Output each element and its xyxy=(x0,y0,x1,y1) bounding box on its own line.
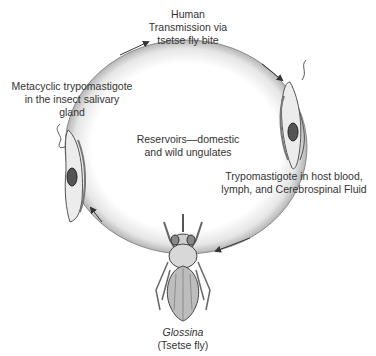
bloodstream-trypomastigote-icon xyxy=(281,60,306,169)
label-glossina: Glossina (Tsetse fly) xyxy=(143,326,223,352)
label-metacyclic: Metacyclic trypomastigote in the insect … xyxy=(4,80,140,119)
life-cycle-diagram: Human Transmission via tsetse fly bite M… xyxy=(0,0,376,356)
label-trypomastigote-host: Trypomastigote in host blood, lymph, and… xyxy=(212,170,376,196)
label-reservoirs: Reservoirs—domestic and wild ungulates xyxy=(128,133,248,159)
label-human-transmission: Human Transmission via tsetse fly bite xyxy=(136,8,240,47)
